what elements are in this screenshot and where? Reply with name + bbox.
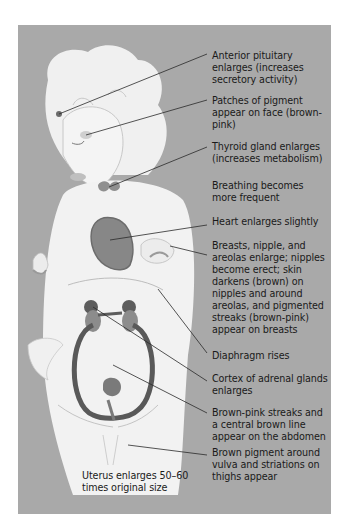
label-anterior-pituitary: Anterior pituitary enlarges (increases s… bbox=[212, 50, 304, 86]
face-shape bbox=[63, 107, 123, 186]
label-heart: Heart enlarges slightly bbox=[212, 216, 318, 228]
label-diaphragm: Diaphragm rises bbox=[212, 350, 289, 362]
label-breasts: Breasts, nipple, and areolas enlarge; ni… bbox=[212, 240, 325, 336]
label-abdomen-streaks: Brown-pink streaks and a central brown l… bbox=[212, 407, 326, 443]
label-thyroid: Thyroid gland enlarges (increases metabo… bbox=[212, 141, 322, 165]
figure-caption-cropped bbox=[15, 520, 215, 530]
label-adrenal: Cortex of adrenal glands enlarges bbox=[212, 373, 328, 397]
label-breathing: Breathing becomes more frequent bbox=[212, 180, 304, 204]
label-face-pigment: Patches of pigment appear on face (brown… bbox=[212, 95, 322, 131]
label-uterus: Uterus enlarges 50–60 times original siz… bbox=[82, 470, 188, 494]
label-vulva-pigment: Brown pigment around vulva and striation… bbox=[212, 447, 320, 483]
figure-panel: Anterior pituitary enlarges (increases s… bbox=[18, 25, 331, 514]
